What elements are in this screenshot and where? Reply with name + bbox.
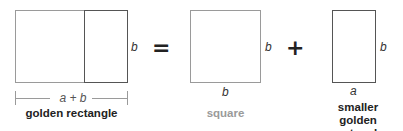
dimension-label: a + b [56,92,90,104]
smaller-golden-rectangle [332,10,376,83]
golden-rectangle-square-part [15,10,85,83]
square [190,10,261,83]
smaller-golden-rectangle-bottom-label: a [350,85,357,97]
square-bottom-label: b [222,86,229,98]
golden-rectangle-caption: golden rectangle [15,107,128,120]
equals-sign: = [152,37,170,59]
dimension-tick-right [127,91,128,105]
square-caption: square [190,107,261,120]
plus-sign: + [286,37,304,59]
smaller-golden-rectangle-caption-line2: rectangle [318,127,398,131]
smaller-golden-rectangle-side-label: b [380,41,387,53]
dimension-line-right [92,98,127,99]
smaller-golden-rectangle-caption-line1: smaller golden [318,101,398,127]
golden-rectangle-small-part [84,10,128,83]
square-side-label: b [265,41,272,53]
smaller-golden-rectangle-caption: smaller golden rectangle [318,101,398,131]
golden-rectangle-side-label: b [131,41,138,53]
dimension-line-left [15,98,50,99]
